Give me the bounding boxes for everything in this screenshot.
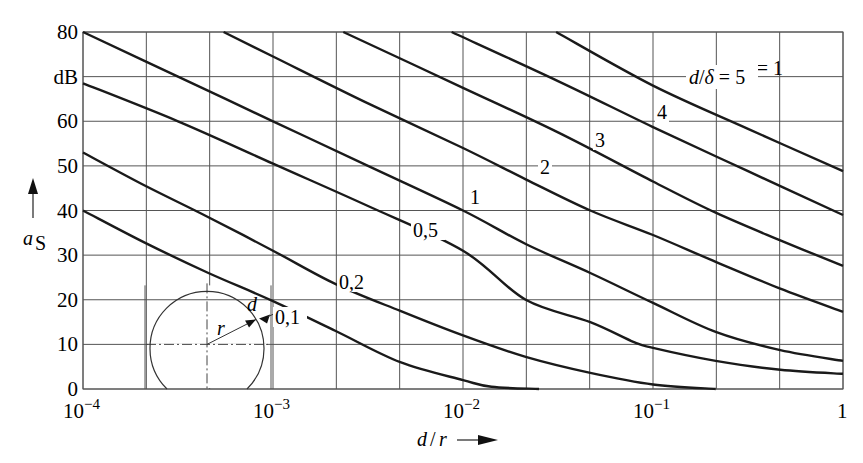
svg-text:a: a (23, 227, 33, 249)
curve-label: 0,5 (413, 219, 438, 241)
curve-label: 4 (657, 101, 667, 123)
curve-label: 3 (595, 129, 605, 151)
x-axis-ticks: 10−410−310−210−11 (63, 396, 848, 423)
arrow-right-icon (478, 435, 498, 445)
y-tick-label: dB (53, 65, 78, 89)
thickness-label: d (247, 293, 258, 315)
y-tick-label: 30 (57, 243, 78, 267)
x-tick-label: 10−4 (63, 396, 100, 423)
svg-text:d: d (417, 428, 428, 450)
svg-text:/: / (430, 428, 436, 450)
x-tick-label: 1 (837, 399, 848, 423)
y-tick-label: 10 (57, 332, 78, 356)
shielding-attenuation-chart: rd 0,10,20,51234 0102030405060dB80 10−41… (0, 0, 863, 463)
y-tick-label: 60 (57, 109, 78, 133)
x-tick-label: 10−2 (443, 396, 480, 423)
curve-label: 2 (540, 156, 550, 178)
curve-4 (452, 32, 843, 215)
x-tick-label: 10−1 (633, 396, 670, 423)
y-tick-label: 80 (57, 20, 78, 44)
x-tick-label: 10−3 (253, 396, 290, 423)
arrow-up-icon (28, 178, 38, 194)
x-axis-label: d / r (417, 428, 498, 450)
y-tick-label: 40 (57, 199, 78, 223)
curve-label: 0,1 (275, 306, 300, 328)
shield-cross-section-inset: rd (145, 283, 280, 389)
curve-label: 1 (470, 186, 480, 208)
radius-label: r (217, 317, 225, 339)
svg-text:S: S (35, 232, 46, 254)
y-axis-ticks: 0102030405060dB80 (53, 20, 78, 401)
y-tick-label: 50 (57, 154, 78, 178)
curve-label-5: d/δ = 5 (689, 66, 745, 88)
y-axis-label: a S (23, 178, 46, 254)
y-tick-label: 0 (68, 377, 79, 401)
curve-label: 0,2 (339, 271, 364, 293)
y-tick-label: 20 (57, 288, 78, 312)
svg-text:r: r (439, 428, 447, 450)
